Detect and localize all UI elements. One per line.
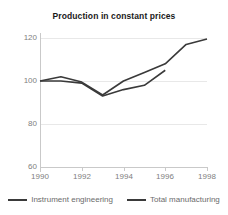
legend-item-total-manufacturing: Total manufacturing: [127, 195, 220, 204]
series-line-total-manufacturing: [40, 39, 207, 95]
legend-label: Instrument engineering: [31, 195, 113, 204]
series-container: [0, 0, 228, 215]
chart-legend: Instrument engineering Total manufacturi…: [0, 195, 228, 204]
legend-label: Total manufacturing: [150, 195, 220, 204]
legend-swatch-icon: [127, 199, 146, 201]
line-chart: Production in constant prices 120 100 80…: [0, 0, 228, 215]
legend-swatch-icon: [8, 199, 27, 201]
series-line-instrument-engineering: [40, 70, 165, 96]
legend-item-instrument-engineering: Instrument engineering: [8, 195, 113, 204]
